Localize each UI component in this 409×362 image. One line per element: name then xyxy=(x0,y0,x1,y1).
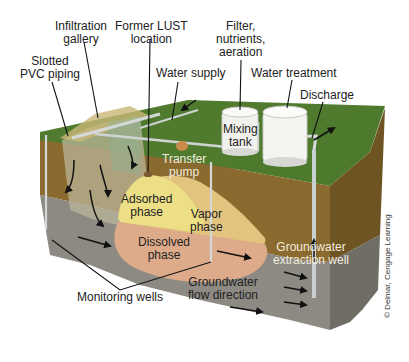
label-line: phase xyxy=(121,206,172,219)
label-line: aeration xyxy=(216,46,265,59)
copyright-credit: © Delmar, Cengage Learning xyxy=(383,214,392,318)
water-treatment-tank xyxy=(263,106,307,167)
label-groundwater-extraction-well: Groundwater extraction well xyxy=(273,241,349,267)
label-line: phase xyxy=(138,249,190,262)
lust-tank-stub xyxy=(144,172,152,177)
label-line: extraction well xyxy=(273,254,349,267)
transfer-pump xyxy=(176,141,188,151)
label-line: location xyxy=(115,33,188,46)
label-groundwater-flow-direction: Groundwater flow direction xyxy=(188,276,258,302)
label-line: gallery xyxy=(55,33,107,46)
label-dissolved-phase: Dissolved phase xyxy=(138,236,190,262)
label-slotted-pvc-piping: Slotted PVC piping xyxy=(20,55,80,81)
label-adsorbed-phase: Adsorbed phase xyxy=(121,193,172,219)
label-line: phase xyxy=(190,221,223,234)
label-monitoring-wells: Monitoring wells xyxy=(77,291,163,304)
label-transfer-pump: Transfer pump xyxy=(162,153,206,179)
label-vapor-phase: Vapor phase xyxy=(190,208,223,234)
label-water-supply: Water supply xyxy=(156,67,226,80)
label-line: tank xyxy=(223,136,258,149)
label-filter-nutrients-aeration: Filter, nutrients, aeration xyxy=(216,20,265,59)
label-line: flow direction xyxy=(188,289,258,302)
label-water-treatment: Water treatment xyxy=(251,67,337,80)
label-discharge: Discharge xyxy=(300,89,354,102)
label-infiltration-gallery: Infiltration gallery xyxy=(55,20,107,46)
label-former-lust-location: Former LUST location xyxy=(115,20,188,46)
label-line: PVC piping xyxy=(20,68,80,81)
label-mixing-tank: Mixing tank xyxy=(223,123,258,149)
label-line: pump xyxy=(162,166,206,179)
